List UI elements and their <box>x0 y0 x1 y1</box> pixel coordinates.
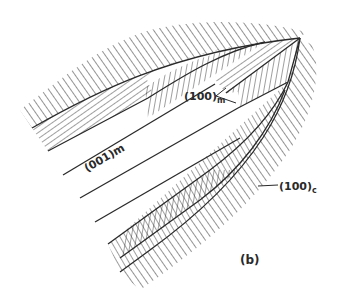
label-100m: (100)m <box>184 91 225 105</box>
lath-tip-diagram <box>0 0 342 307</box>
diagram-canvas: (100)m (001)m (100)c (b) <box>0 0 342 307</box>
label-100c: (100)c <box>279 181 317 195</box>
panel-label: (b) <box>240 254 260 266</box>
